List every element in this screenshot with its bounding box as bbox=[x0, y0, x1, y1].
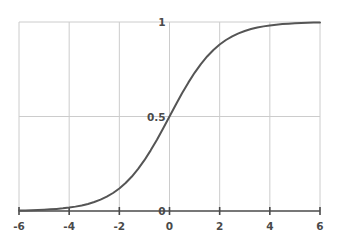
y-tick-label-1: 0.5 bbox=[147, 111, 166, 123]
x-tick-label-4: 2 bbox=[216, 220, 223, 232]
y-tick-label-0: 0 bbox=[158, 205, 165, 217]
x-tick-label-3: 0 bbox=[166, 220, 173, 232]
chart-canvas: -6-4-20246 00.51 bbox=[0, 0, 338, 246]
x-tick-label-6: 6 bbox=[316, 220, 323, 232]
y-tick-label-2: 1 bbox=[158, 16, 165, 28]
x-tick-label-0: -6 bbox=[13, 220, 25, 232]
x-tick-label-5: 4 bbox=[266, 220, 273, 232]
x-tick-label-1: -4 bbox=[63, 220, 75, 232]
sigmoid-chart: -6-4-20246 00.51 bbox=[0, 0, 338, 246]
x-tick-label-2: -2 bbox=[113, 220, 125, 232]
